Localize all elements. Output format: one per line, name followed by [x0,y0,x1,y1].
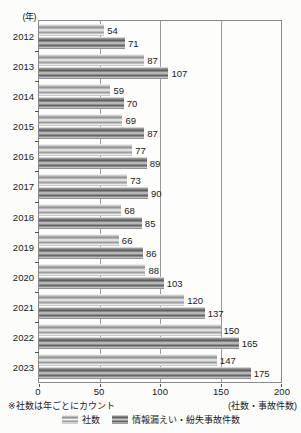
bar-row: 71 [39,37,281,49]
year-label: 2021 [0,301,34,312]
bar-incidents [39,307,205,319]
bar-row: 90 [39,187,281,199]
year-label: 2020 [0,271,34,282]
value-label: 88 [148,265,159,276]
bar-incidents [39,127,144,139]
bar-companies [39,294,184,306]
bar-chart: (年) 201254712013871072014597020156987201… [0,0,301,433]
bar-row: 77 [39,144,281,156]
value-label: 59 [113,84,124,95]
bar-companies [39,84,110,96]
year-group-2021: 2021120137 [39,292,281,322]
value-label: 150 [224,325,240,336]
year-label: 2023 [0,361,34,372]
value-label: 89 [150,157,161,168]
year-group-2016: 20167789 [39,141,281,171]
bar-row: 69 [39,114,281,126]
legend: 社数情報漏えい・紛失事故件数 [0,413,301,426]
bar-companies [39,144,132,156]
value-label: 165 [242,338,258,349]
year-group-2015: 20156987 [39,111,281,141]
year-label: 2022 [0,331,34,342]
bar-row: 87 [39,54,281,66]
year-label: 2019 [0,241,34,252]
value-label: 147 [220,355,236,366]
value-label: 54 [107,24,118,35]
value-label: 77 [135,144,146,155]
bar-row: 70 [39,97,281,109]
legend-label: 情報漏えい・紛失事故件数 [132,413,240,426]
bar-groups: 2012547120138710720145970201569872016778… [39,21,281,382]
year-group-2023: 2023147175 [39,352,281,382]
year-label: 2016 [0,151,34,162]
bar-companies [39,114,122,126]
value-label: 66 [122,235,133,246]
year-label: 2013 [0,61,34,72]
year-label: 2017 [0,181,34,192]
bar-row: 87 [39,127,281,139]
value-label: 87 [147,54,158,65]
value-label: 120 [187,295,203,306]
bar-incidents [39,337,239,349]
bar-incidents [39,217,142,229]
value-label: 68 [124,205,135,216]
legend-item-incidents: 情報漏えい・紛失事故件数 [112,413,240,426]
value-label: 71 [128,37,139,48]
bar-incidents [39,367,251,379]
bar-row: 89 [39,157,281,169]
value-label: 69 [125,114,136,125]
legend-item-companies: 社数 [62,413,100,426]
year-group-2017: 20177390 [39,171,281,201]
year-group-2019: 20196686 [39,232,281,262]
year-group-2012: 20125471 [39,21,281,51]
x-axis-labels: 050100150200 [38,386,282,397]
year-group-2013: 201387107 [39,51,281,81]
bar-row: 54 [39,24,281,36]
bar-row: 68 [39,204,281,216]
x-axis-label-50: 50 [94,386,105,397]
bar-incidents [39,97,124,109]
x-axis-unit-label: (社数・事故件数) [228,399,297,412]
bar-row: 107 [39,67,281,79]
bar-row: 73 [39,174,281,186]
value-label: 137 [208,308,224,319]
year-group-2014: 20145970 [39,81,281,111]
x-axis-label-100: 100 [152,386,168,397]
bar-row: 88 [39,264,281,276]
bar-incidents [39,157,147,169]
bar-row: 86 [39,247,281,259]
y-axis-unit-label: (年) [12,10,36,23]
legend-label: 社数 [82,413,100,426]
value-label: 70 [127,97,138,108]
value-label: 90 [151,187,162,198]
bar-companies [39,204,121,216]
bar-companies [39,264,145,276]
legend-swatch-companies [62,415,78,424]
bar-row: 85 [39,217,281,229]
year-group-2022: 2022150165 [39,322,281,352]
bar-row: 150 [39,324,281,336]
footnote: ※社数は年ごとにカウント [8,399,115,412]
bar-companies [39,354,217,366]
year-label: 2018 [0,211,34,222]
plot-area: 2012547120138710720145970201569872016778… [38,20,282,383]
x-axis-label-0: 0 [35,386,40,397]
bar-incidents [39,67,168,79]
bar-incidents [39,187,148,199]
bar-companies [39,54,144,66]
bar-companies [39,174,127,186]
year-group-2020: 202088103 [39,262,281,292]
bar-row: 103 [39,277,281,289]
x-axis-label-200: 200 [274,386,290,397]
bar-row: 137 [39,307,281,319]
year-label: 2014 [0,91,34,102]
year-label: 2015 [0,121,34,132]
bar-companies [39,234,119,246]
value-label: 87 [147,127,158,138]
bar-row: 165 [39,337,281,349]
year-group-2018: 20186885 [39,201,281,231]
value-label: 86 [146,248,157,259]
bar-companies [39,324,221,336]
bar-row: 120 [39,294,281,306]
bar-incidents [39,247,143,259]
